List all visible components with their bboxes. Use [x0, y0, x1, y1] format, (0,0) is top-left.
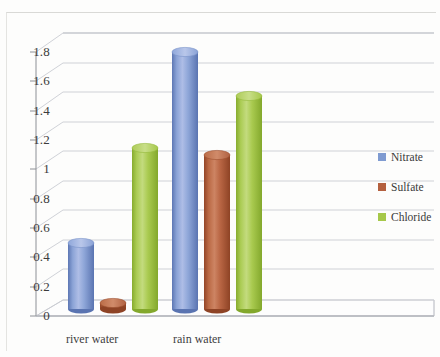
bar-river-water-sulfate[interactable]	[100, 298, 126, 313]
y-tick-0-6: 0.6	[33, 221, 50, 234]
y-tick-0-8: 0.8	[33, 192, 50, 205]
bar-river-water-chloride[interactable]	[132, 143, 158, 313]
legend-swatch-nitrate	[378, 153, 386, 161]
bar-rain-water-sulfate[interactable]	[204, 150, 230, 313]
y-tick-1-2: 1.2	[33, 133, 50, 146]
y-tick-0-2: 0.2	[33, 280, 50, 293]
bar-rain-water-nitrate[interactable]	[172, 47, 198, 313]
legend-swatch-sulfate	[378, 183, 386, 191]
legend-label-chloride: Chloride	[391, 211, 431, 223]
x-tick-river-water: river water	[66, 332, 118, 347]
y-axis-labels: 1.8 1.6 1.4 1.2 1 0.8 0.6 0.4 0.2 0	[8, 0, 50, 357]
y-tick-1: 1	[43, 162, 50, 175]
y-tick-0: 0	[43, 309, 50, 322]
y-tick-0-4: 0.4	[33, 250, 50, 263]
legend-label-sulfate: Sulfate	[391, 181, 424, 193]
chart-page: 1.8 1.6 1.4 1.2 1 0.8 0.6 0.4 0.2 0 rive…	[0, 0, 440, 357]
legend-item-chloride[interactable]: Chloride	[378, 202, 431, 232]
legend-label-nitrate: Nitrate	[391, 151, 423, 163]
legend-item-nitrate[interactable]: Nitrate	[378, 142, 431, 172]
bar-river-water-nitrate[interactable]	[68, 238, 94, 313]
y-tick-1-6: 1.6	[33, 74, 50, 87]
y-tick-1-8: 1.8	[33, 45, 50, 58]
x-tick-rain-water: rain water	[173, 332, 221, 347]
bar-rain-water-chloride[interactable]	[236, 91, 262, 313]
chart-legend: Nitrate Sulfate Chloride	[378, 142, 431, 232]
chart-3d-walls	[36, 33, 434, 316]
gridlines	[36, 33, 434, 316]
y-tick-1-4: 1.4	[33, 104, 50, 117]
column-chart-3d	[0, 0, 440, 357]
legend-item-sulfate[interactable]: Sulfate	[378, 172, 431, 202]
legend-swatch-chloride	[378, 213, 386, 221]
